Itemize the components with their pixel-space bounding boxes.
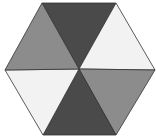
hexagon-diagram xyxy=(0,0,156,138)
